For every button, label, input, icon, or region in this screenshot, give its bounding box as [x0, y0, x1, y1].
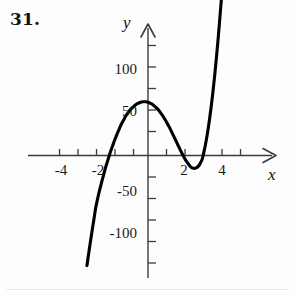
x-tick-label-minus-4: -4 [50, 163, 72, 178]
x-axis-label: x [268, 166, 276, 183]
x-tick-label-4: 4 [214, 163, 230, 178]
y-tick-label-minus-50: -50 [96, 184, 137, 199]
y-tick-label-50: 50 [103, 104, 137, 119]
x-tick-label-2: 2 [176, 163, 192, 178]
y-axis-group [141, 24, 156, 278]
graph-plot-area [0, 0, 294, 296]
y-tick-label-100: 100 [103, 62, 137, 77]
x-axis-group [28, 149, 276, 163]
y-tick-label-minus-100: -100 [90, 226, 137, 241]
y-axis-label: y [123, 14, 131, 31]
x-tick-label-minus-2: -2 [87, 163, 109, 178]
y-axis-ticks [148, 46, 156, 264]
figure-container: 31. [0, 0, 294, 296]
page-divider [6, 289, 288, 290]
